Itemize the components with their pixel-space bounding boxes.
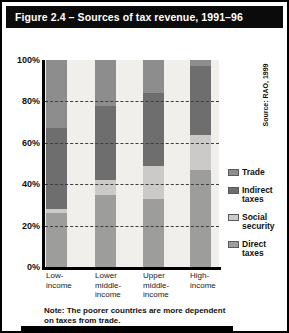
- x-axis-label-high-income: High-income: [190, 271, 216, 290]
- x-axis-label-low-income: Low-income: [46, 271, 72, 290]
- legend-label: Direct taxes: [242, 240, 284, 259]
- figure-box: Figure 2.4 – Sources of tax revenue, 199…: [0, 0, 289, 333]
- figure-title-bar: Figure 2.4 – Sources of tax revenue, 199…: [6, 6, 283, 28]
- bar-lower-middle-income: [95, 60, 116, 267]
- x-axis-line: [42, 267, 221, 270]
- note-line-1: Note: The poorer countries are more depe…: [44, 306, 225, 316]
- y-tick-label: 20%: [6, 221, 40, 231]
- legend-item-trade: Trade: [228, 168, 284, 178]
- bar-segment-social-security: [143, 166, 164, 199]
- x-axis-label-lower-middle-income: Lowermiddle-income: [95, 271, 121, 300]
- legend: TradeIndirect taxesSocial securityDirect…: [228, 168, 284, 259]
- chart-canvas: 100%80%60%40%20%0% Low-incomeLowermiddle…: [6, 28, 283, 331]
- legend-swatch-social-security: [228, 214, 239, 221]
- note-line-2: on taxes from trade.: [44, 316, 225, 326]
- legend-label: Trade: [242, 168, 284, 178]
- y-tick-label: 80%: [6, 96, 40, 106]
- bar-high-income: [190, 60, 211, 267]
- bar-segment-direct-taxes: [95, 195, 116, 267]
- bar-upper-middle-income: [143, 60, 164, 267]
- legend-item-direct-taxes: Direct taxes: [228, 240, 284, 259]
- bottom-rule: [21, 326, 233, 331]
- bar-segment-indirect-taxes: [46, 128, 67, 209]
- bar-segment-direct-taxes: [143, 199, 164, 267]
- figure-note: Note: The poorer countries are more depe…: [44, 306, 225, 325]
- bar-low-income: [46, 60, 67, 267]
- bar-segment-indirect-taxes: [190, 66, 211, 134]
- x-axis-label-upper-middle-income: Uppermiddle-income: [143, 271, 169, 300]
- bar-segment-social-security: [190, 135, 211, 170]
- gridline-80: [45, 101, 219, 102]
- y-axis-line: [42, 60, 45, 270]
- bar-segment-trade: [46, 60, 67, 128]
- y-tick-label: 100%: [6, 55, 40, 65]
- y-tick-label: 0%: [6, 262, 40, 272]
- legend-swatch-indirect-taxes: [228, 187, 239, 194]
- legend-swatch-trade: [228, 169, 239, 176]
- y-tick-label: 40%: [6, 179, 40, 189]
- legend-swatch-direct-taxes: [228, 241, 239, 248]
- bar-segment-direct-taxes: [46, 213, 67, 267]
- gridline-40: [45, 184, 219, 185]
- y-tick-label: 60%: [6, 138, 40, 148]
- gridline-20: [45, 226, 219, 227]
- bar-segment-trade: [143, 60, 164, 93]
- gridline-60: [45, 143, 219, 144]
- legend-label: Indirect taxes: [242, 186, 284, 205]
- bar-segment-indirect-taxes: [143, 93, 164, 165]
- bar-segment-social-security: [95, 180, 116, 194]
- legend-item-indirect-taxes: Indirect taxes: [228, 186, 284, 205]
- figure-title: Figure 2.4 – Sources of tax revenue, 199…: [15, 11, 243, 23]
- legend-label: Social security: [242, 213, 284, 232]
- bar-segment-trade: [95, 60, 116, 106]
- source-note: Source: RAO, 1999: [262, 49, 272, 141]
- legend-item-social-security: Social security: [228, 213, 284, 232]
